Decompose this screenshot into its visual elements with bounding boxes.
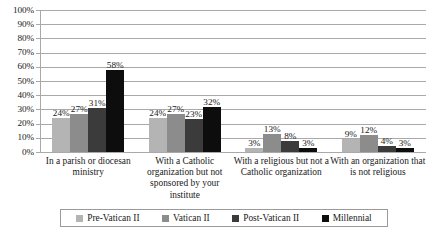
bar: 24% (149, 118, 167, 152)
category-label: With an organization that is not religio… (330, 156, 427, 178)
bar: 13% (263, 134, 281, 152)
bar-group: 24%27%23%32% (137, 10, 234, 152)
legend-item[interactable]: Vatican II (162, 213, 210, 223)
bar-value-label: 27% (71, 104, 88, 114)
bar-value-label: 32% (203, 97, 220, 107)
category-label: With a Catholic organization but not spo… (137, 156, 234, 201)
bar-group: 3%13%8%3% (233, 10, 330, 152)
bar: 3% (299, 148, 317, 152)
y-tick-label: 80% (0, 34, 34, 43)
bar: 32% (203, 107, 221, 152)
legend-swatch-icon (322, 215, 329, 222)
bar-value-label: 4% (381, 136, 393, 146)
bar: 58% (106, 70, 124, 152)
bar-group: 9%12%4%3% (330, 10, 427, 152)
bar-value-label: 23% (185, 109, 202, 119)
bar-value-label: 9% (345, 129, 357, 139)
y-tick-label: 60% (0, 62, 34, 71)
bar: 9% (342, 139, 360, 152)
legend-label: Millennial (333, 213, 372, 223)
bar: 8% (281, 141, 299, 152)
legend-item[interactable]: Millennial (322, 213, 372, 223)
y-tick-label: 40% (0, 91, 34, 100)
bar: 3% (396, 148, 414, 152)
legend-label: Vatican II (173, 213, 210, 223)
bar: 31% (88, 108, 106, 152)
y-tick-label: 0% (0, 148, 34, 157)
y-tick-label: 10% (0, 133, 34, 142)
y-tick-label: 90% (0, 20, 34, 29)
bar: 24% (52, 118, 70, 152)
bar-value-label: 27% (167, 104, 184, 114)
legend-label: Pre-Vatican II (87, 213, 139, 223)
bar-value-label: 12% (360, 125, 377, 135)
bar: 4% (378, 146, 396, 152)
bar: 27% (70, 114, 88, 152)
y-tick-label: 50% (0, 77, 34, 86)
bar-group: 24%27%31%58% (40, 10, 137, 152)
bar: 3% (245, 148, 263, 152)
y-tick-label: 70% (0, 48, 34, 57)
bar: 12% (360, 135, 378, 152)
y-tick-label: 20% (0, 119, 34, 128)
gridline (40, 152, 426, 153)
bar-value-label: 3% (399, 138, 411, 148)
bar-value-label: 24% (149, 108, 166, 118)
bar-value-label: 13% (264, 124, 281, 134)
bar-value-label: 8% (284, 131, 296, 141)
legend-item[interactable]: Post-Vatican II (232, 213, 299, 223)
bar-value-label: 58% (107, 60, 124, 70)
bar-value-label: 3% (248, 138, 260, 148)
bar: 23% (185, 119, 203, 152)
legend-swatch-icon (232, 215, 239, 222)
bar-value-label: 31% (89, 98, 106, 108)
legend-swatch-icon (162, 215, 169, 222)
legend-swatch-icon (76, 215, 83, 222)
chart-legend: Pre-Vatican IIVatican IIPost-Vatican IIM… (60, 209, 388, 227)
category-label: With a religious but not a Catholic orga… (233, 156, 330, 178)
y-tick-label: 30% (0, 105, 34, 114)
bar-value-label: 24% (53, 108, 70, 118)
category-label: In a parish or diocesan ministry (40, 156, 137, 178)
bar-value-label: 3% (302, 138, 314, 148)
legend-label: Post-Vatican II (243, 213, 299, 223)
y-tick-mark (36, 152, 40, 153)
y-tick-label: 100% (0, 6, 34, 15)
bar-chart: 100%90%80%70%60%50%40%30%20%10%0% 24%27%… (0, 0, 436, 241)
legend-item[interactable]: Pre-Vatican II (76, 213, 139, 223)
plot-area: 24%27%31%58%24%27%23%32%3%13%8%3%9%12%4%… (40, 10, 426, 152)
bar: 27% (167, 114, 185, 152)
